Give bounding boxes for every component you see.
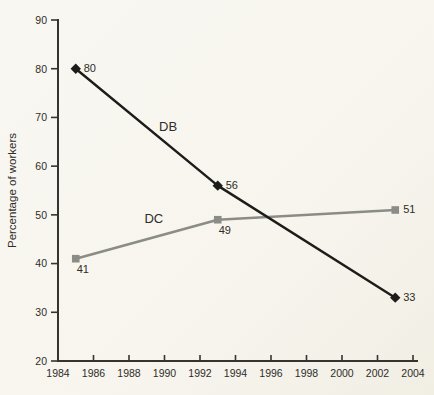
x-axis-tick-label: 2002 bbox=[366, 367, 390, 379]
y-axis-title: Percentage of workers bbox=[6, 133, 18, 248]
chart-svg: 2030405060708090198419861988199019921994… bbox=[0, 0, 434, 395]
x-axis-tick-label: 1988 bbox=[117, 367, 141, 379]
x-axis-tick-label: 1986 bbox=[82, 367, 106, 379]
series-label-db: DB bbox=[159, 119, 177, 134]
x-axis-tick-label: 1998 bbox=[295, 367, 319, 379]
marker-square bbox=[391, 206, 399, 214]
series-label-dc: DC bbox=[144, 211, 163, 226]
marker-square bbox=[72, 255, 80, 263]
x-axis-tick-label: 2000 bbox=[330, 367, 354, 379]
x-axis-tick-label: 1990 bbox=[153, 367, 177, 379]
y-axis-tick-label: 20 bbox=[35, 355, 47, 367]
marker-square bbox=[214, 216, 222, 224]
series-line-dc bbox=[76, 210, 396, 259]
point-label-db: 33 bbox=[403, 291, 415, 303]
x-axis-tick-label: 1994 bbox=[224, 367, 248, 379]
y-axis-tick-label: 50 bbox=[35, 209, 47, 221]
x-axis-tick-label: 1996 bbox=[259, 367, 283, 379]
y-axis-tick-label: 60 bbox=[35, 160, 47, 172]
y-axis-tick-label: 80 bbox=[35, 63, 47, 75]
x-axis-tick-label: 1984 bbox=[46, 367, 70, 379]
x-axis-tick-label: 2004 bbox=[401, 367, 425, 379]
y-axis-tick-label: 30 bbox=[35, 306, 47, 318]
point-label-dc: 51 bbox=[403, 203, 415, 215]
y-axis-tick-label: 70 bbox=[35, 111, 47, 123]
point-label-dc: 49 bbox=[219, 224, 231, 236]
point-label-dc: 41 bbox=[77, 263, 89, 275]
point-label-db: 56 bbox=[226, 179, 238, 191]
pension-coverage-chart: 2030405060708090198419861988199019921994… bbox=[0, 0, 434, 395]
point-label-db: 80 bbox=[84, 62, 96, 74]
y-axis-tick-label: 90 bbox=[35, 14, 47, 26]
x-axis-tick-label: 1992 bbox=[188, 367, 212, 379]
y-axis-tick-label: 40 bbox=[35, 257, 47, 269]
